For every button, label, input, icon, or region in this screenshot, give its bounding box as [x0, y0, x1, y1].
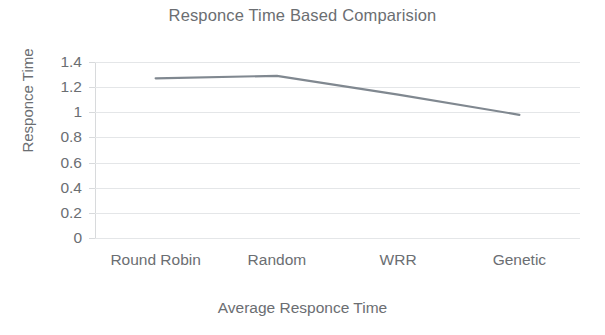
y-axis-tick-label: 0	[36, 230, 82, 246]
y-axis-tick-label: 1	[36, 104, 82, 120]
series-line-average-responce-time	[95, 62, 580, 238]
plot-area	[95, 62, 580, 238]
x-axis-tick-labels: Round RobinRandomWRRGenetic	[0, 252, 605, 276]
chart-title: Responce Time Based Comparision	[0, 6, 605, 25]
x-axis-tick-label: WRR	[380, 252, 417, 268]
y-axis-tick-label: 0.8	[36, 129, 82, 145]
x-axis-tick-label: Round Robin	[110, 252, 200, 268]
y-axis-tick-label: 0.6	[36, 155, 82, 171]
y-axis-tick-mark	[89, 137, 95, 138]
y-axis-tick-mark	[89, 112, 95, 113]
x-axis-tick-label: Genetic	[493, 252, 546, 268]
x-axis-tick-label: Random	[248, 252, 307, 268]
y-axis-tick-label: 0.2	[36, 205, 82, 221]
y-axis-tick-mark	[89, 62, 95, 63]
y-axis-tick-label: 0.4	[36, 180, 82, 196]
y-axis-tick-label: 1.2	[36, 79, 82, 95]
y-axis-tick-mark	[89, 213, 95, 214]
chart-container: Responce Time Based Comparision Responce…	[0, 0, 605, 335]
y-axis-title: Responce Time	[19, 31, 36, 171]
y-axis-tick-labels: 1.41.210.80.60.40.20	[36, 0, 82, 335]
y-axis-tick-mark	[89, 188, 95, 189]
gridline	[95, 238, 580, 239]
y-axis-tick-mark	[89, 163, 95, 164]
y-axis-tick-mark	[89, 87, 95, 88]
y-axis-tick-mark	[89, 238, 95, 239]
x-axis-title: Average Responce Time	[0, 299, 605, 317]
y-axis-tick-label: 1.4	[36, 54, 82, 70]
